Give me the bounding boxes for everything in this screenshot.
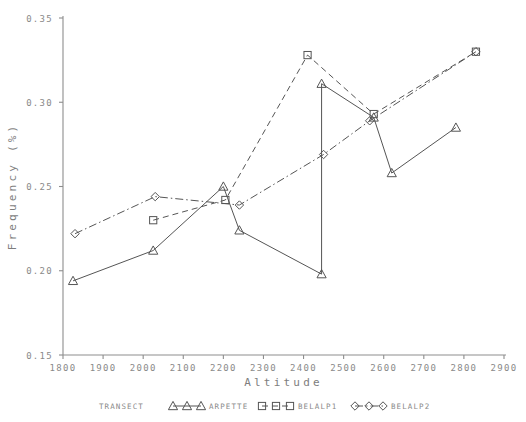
y-tick-label: 0.35 xyxy=(26,14,53,24)
series-belalp2 xyxy=(71,48,480,238)
x-tick-label: 2200 xyxy=(210,363,237,373)
y-tick-label: 0.30 xyxy=(26,98,53,108)
series-layer xyxy=(68,48,480,285)
x-tick-label: 2400 xyxy=(290,363,317,373)
x-tick-label: 2000 xyxy=(130,363,157,373)
legend-title: TRANSECT xyxy=(99,402,144,411)
chart-legend: TRANSECTARPETTEBELALP1BELALP2 xyxy=(99,401,430,411)
x-tick-label: 2700 xyxy=(410,363,437,373)
y-tick-label: 0.25 xyxy=(26,182,53,192)
series-line-belalp1 xyxy=(153,52,476,221)
x-tick-label: 2500 xyxy=(330,363,357,373)
series-belalp1 xyxy=(150,48,480,224)
series-line-belalp2 xyxy=(75,52,476,234)
x-tick-label: 2600 xyxy=(370,363,397,373)
y-tick-label: 0.20 xyxy=(26,266,53,276)
data-point-square xyxy=(150,217,157,224)
x-axis-ticks: 1800190020002100220023002400250026002700… xyxy=(50,355,518,373)
series-line-arpette xyxy=(73,84,456,281)
legend-label: BELALP2 xyxy=(391,402,430,411)
series-arpette xyxy=(68,79,460,284)
y-axis-ticks: 0.150.200.250.300.35 xyxy=(26,14,63,361)
x-tick-label: 1800 xyxy=(50,363,77,373)
legend-label: ARPETTE xyxy=(209,402,248,411)
chart-root: 0.150.200.250.300.35 1800190020002100220… xyxy=(0,0,526,422)
x-tick-label: 2900 xyxy=(491,363,518,373)
data-point-diamond xyxy=(71,229,79,237)
legend-entry-belalp2[interactable]: BELALP2 xyxy=(351,402,431,411)
frequency-altitude-line-chart: 0.150.200.250.300.35 1800190020002100220… xyxy=(0,0,526,422)
axis-titles: AltitudeFrequency (%) xyxy=(6,123,323,389)
legend-label: BELALP1 xyxy=(298,402,337,411)
y-axis: 0.150.200.250.300.35 xyxy=(26,14,63,361)
x-axis: 1800190020002100220023002400250026002700… xyxy=(50,355,518,373)
x-tick-label: 1900 xyxy=(90,363,117,373)
x-tick-label: 2800 xyxy=(450,363,477,373)
y-axis-title: Frequency (%) xyxy=(6,123,19,251)
x-tick-label: 2100 xyxy=(170,363,197,373)
data-point-square xyxy=(472,48,479,55)
legend-entry-arpette[interactable]: ARPETTE xyxy=(168,401,248,411)
data-point-diamond xyxy=(151,192,159,200)
x-axis-title: Altitude xyxy=(244,376,323,389)
x-tick-label: 2300 xyxy=(250,363,277,373)
legend-entry-belalp1[interactable]: BELALP1 xyxy=(258,402,337,411)
y-tick-label: 0.15 xyxy=(26,351,53,361)
